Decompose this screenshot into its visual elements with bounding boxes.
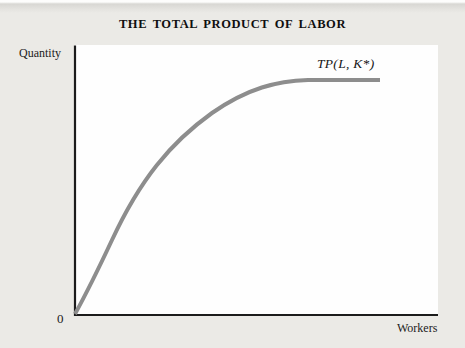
origin-label: 0 <box>57 311 64 327</box>
total-product-curve <box>75 80 380 314</box>
x-axis-label: Workers <box>397 321 437 336</box>
y-axis-label: Quantity <box>19 46 61 61</box>
figure-canvas: THE TOTAL PRODUCT OF LABOR Quantity 0 Wo… <box>0 0 465 348</box>
curve-label: TP(L, K*) <box>317 56 374 72</box>
chart-svg <box>0 0 465 348</box>
